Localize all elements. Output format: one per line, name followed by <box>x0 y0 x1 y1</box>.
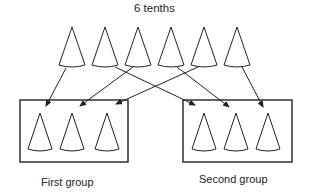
cone-icon <box>95 113 119 151</box>
cone-icon <box>92 27 118 67</box>
first-group-box <box>20 100 128 162</box>
groups <box>20 100 292 162</box>
second-group-label: Second group <box>199 173 268 185</box>
arrows <box>46 67 263 107</box>
cone-icon <box>256 113 280 151</box>
cone-icon <box>158 27 184 67</box>
second-group-box <box>183 100 292 162</box>
cone-icon <box>191 27 217 67</box>
six-tenths-diagram <box>0 0 309 194</box>
cone-icon <box>125 27 151 67</box>
arrow-line <box>116 67 198 104</box>
cone-icon <box>28 113 52 151</box>
cone-icon <box>192 113 216 151</box>
cone-icon <box>224 113 248 151</box>
first-group-label: First group <box>41 176 94 188</box>
cone-icon <box>224 27 250 67</box>
cone-icon <box>60 113 84 151</box>
cone-icon <box>59 27 85 67</box>
top-cones-row <box>59 27 250 67</box>
arrow-line <box>242 67 263 107</box>
